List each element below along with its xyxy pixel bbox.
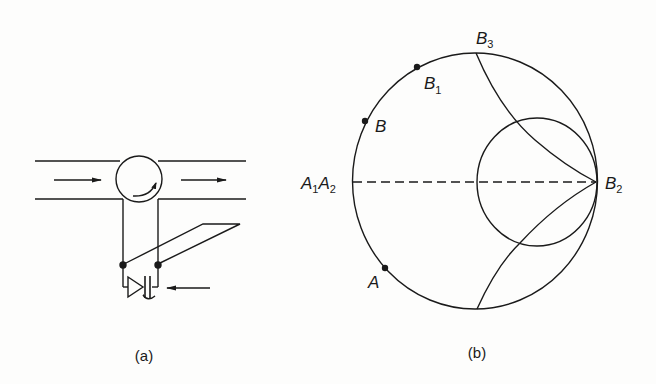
diode-icon <box>128 277 143 297</box>
node-dot-right <box>155 262 161 268</box>
label-A1A2: A1A2 <box>300 174 336 195</box>
figure-canvas: (a) B3 B1 B A1A2 B2 A (b) <box>0 0 656 384</box>
outer-circle <box>353 53 598 309</box>
label-A: A <box>367 273 379 292</box>
label-B3: B3 <box>476 29 493 50</box>
label-B: B <box>375 117 386 136</box>
parallelogram-loop <box>124 224 240 264</box>
rotation-arrow-icon <box>133 183 156 196</box>
panel-b <box>353 53 598 309</box>
panel-a <box>35 156 246 299</box>
point-A <box>382 265 388 271</box>
caption-a: (a) <box>135 347 153 364</box>
labels-b: B3 B1 B A1A2 B2 A <box>300 29 622 292</box>
label-B2: B2 <box>605 174 622 195</box>
node-dot-left <box>120 262 126 268</box>
figure-svg: (a) B3 B1 B A1A2 B2 A (b) <box>0 0 656 384</box>
caption-b: (b) <box>468 344 486 361</box>
point-B1 <box>414 64 420 70</box>
label-B1: B1 <box>424 74 441 96</box>
point-B <box>362 118 368 124</box>
